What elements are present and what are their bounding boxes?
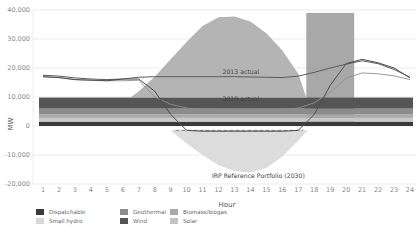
y-tick-label: 20,000 (7, 64, 30, 72)
y-tick-label: -20,000 (5, 180, 30, 188)
x-tick-label: 23 (390, 186, 398, 194)
x-tick-label: 5 (105, 186, 109, 194)
legend-item: Solar (170, 218, 250, 224)
legend-item: Geothermal (120, 209, 170, 215)
x-tick-label: 15 (262, 186, 270, 194)
x-tick-label: 6 (121, 186, 125, 194)
legend-swatch (36, 209, 44, 215)
x-tick-label: 22 (374, 186, 382, 194)
x-tick-label: 12 (214, 186, 222, 194)
legend-item: Dispatchable (36, 209, 120, 215)
chart-areas (39, 13, 413, 173)
band-small-hydro (39, 118, 413, 122)
x-axis-label: Hour (219, 201, 236, 209)
chart-canvas: 40,00030,00020,00010,0000-10,000-20,000 … (0, 0, 420, 236)
x-tick-label: 1 (41, 186, 45, 194)
x-tick-label: 16 (278, 186, 286, 194)
y-tick-label: 10,000 (7, 93, 30, 101)
annotation-label: 2013 actual (222, 68, 259, 75)
annotation-label: IRP Reference Portfolio (2030) (212, 172, 305, 179)
band-biomass-biogas (39, 114, 413, 117)
y-axis-label: MW (7, 117, 15, 130)
legend-swatch (120, 209, 128, 215)
x-tick-label: 24 (406, 186, 414, 194)
legend-swatch (170, 209, 178, 215)
x-tick-label: 19 (326, 186, 334, 194)
legend-label: Biomass/biogas (183, 209, 227, 215)
x-tick-label: 21 (358, 186, 366, 194)
irp-negative-area (171, 130, 308, 172)
y-tick-label: 0 (26, 122, 30, 130)
x-tick-label: 13 (230, 186, 238, 194)
x-tick-label: 20 (342, 186, 350, 194)
x-axis-ticks: 123456789101112131415161718192021222324 (41, 186, 414, 194)
legend-swatch (120, 218, 128, 224)
legend-label: Small hydro (49, 218, 82, 224)
x-tick-label: 3 (73, 186, 77, 194)
legend-label: Geothermal (133, 209, 166, 215)
x-tick-label: 2 (57, 186, 61, 194)
y-tick-label: -10,000 (5, 151, 30, 159)
solar-area (131, 16, 307, 97)
legend-item: Small hydro (36, 218, 120, 224)
x-tick-label: 7 (137, 186, 141, 194)
y-axis-ticks: 40,00030,00020,00010,0000-10,000-20,000 (5, 6, 30, 188)
x-tick-label: 14 (246, 186, 254, 194)
x-tick-label: 18 (310, 186, 318, 194)
chart-legend: DispatchableGeothermalBiomass/biogasSmal… (36, 209, 250, 224)
legend-item: Biomass/biogas (170, 209, 250, 215)
x-tick-label: 11 (198, 186, 206, 194)
annotation-label: 2019 actual (222, 95, 259, 102)
x-tick-label: 17 (294, 186, 302, 194)
legend-label: Solar (183, 218, 197, 224)
x-tick-label: 10 (182, 186, 190, 194)
legend-label: Dispatchable (49, 209, 86, 215)
legend-swatch (170, 218, 178, 224)
x-tick-label: 4 (89, 186, 93, 194)
y-tick-label: 30,000 (7, 35, 30, 43)
x-tick-label: 9 (169, 186, 173, 194)
band-dispatchable (39, 122, 413, 126)
legend-swatch (36, 218, 44, 224)
legend-item: Wind (120, 218, 170, 224)
y-tick-label: 40,000 (7, 6, 30, 14)
legend-label: Wind (133, 218, 147, 224)
x-tick-label: 8 (153, 186, 157, 194)
